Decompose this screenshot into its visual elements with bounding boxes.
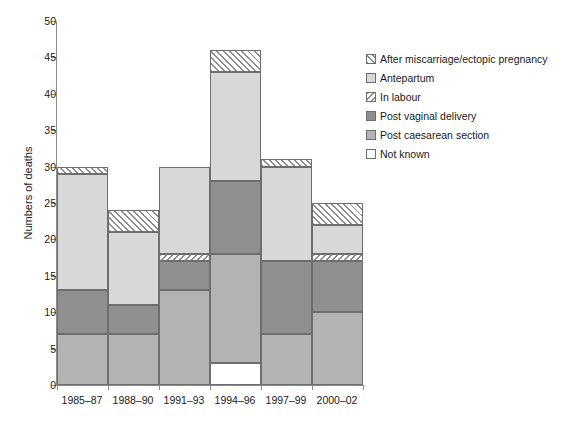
y-tick-label-wrap: 40 [0, 89, 56, 99]
bar-segment-postcaes[interactable] [57, 334, 108, 385]
bar-segment-aftermis[interactable] [57, 167, 108, 174]
y-tick-label: 40 [12, 89, 56, 99]
stacked-bar-chart: Numbers of deaths 05101520253035404550 1… [0, 0, 565, 427]
bar-segment-postcaes[interactable] [108, 334, 159, 385]
legend-item-antepartum[interactable]: Antepartum [366, 69, 562, 87]
y-tick-label: 50 [12, 16, 56, 26]
y-tick-label: 15 [12, 271, 56, 281]
bar-segment-antepartum[interactable] [159, 167, 210, 254]
y-tick-label-wrap: 45 [0, 52, 56, 62]
y-tick-label: 45 [12, 52, 56, 62]
bar-segment-aftermis[interactable] [312, 203, 363, 225]
y-tick-label: 10 [12, 307, 56, 317]
legend-swatch-icon [366, 149, 376, 159]
y-tick-label-wrap: 5 [0, 344, 56, 354]
legend-label: Antepartum [380, 73, 434, 84]
bar-segment-antepartum[interactable] [57, 174, 108, 290]
legend-label: In labour [380, 92, 421, 103]
bar-segment-postvag[interactable] [312, 261, 363, 312]
bar-segment-aftermis[interactable] [210, 50, 261, 72]
legend-item-not-known[interactable]: Not known [366, 145, 562, 163]
x-tick-label-199799: 1997–99 [261, 394, 312, 406]
bar-segment-postcaes[interactable] [261, 334, 312, 385]
y-tick-label: 20 [12, 234, 56, 244]
legend-label: Post caesarean section [380, 130, 489, 141]
legend-swatch-icon [366, 92, 376, 102]
bar-segment-postcaes[interactable] [312, 312, 363, 385]
x-tick-label-199496: 1994–96 [210, 394, 261, 406]
y-tick-label: 30 [12, 162, 56, 172]
y-tick-label: 0 [12, 380, 56, 390]
bar-segment-inlabour[interactable] [159, 254, 210, 261]
y-tick-label-wrap: 30 [0, 162, 56, 172]
x-tick-label-198587: 1985–87 [57, 394, 108, 406]
legend-label: After miscarriage/ectopic pregnancy [380, 54, 548, 65]
y-tick-label-wrap: 20 [0, 234, 56, 244]
x-tick-mark [159, 385, 160, 390]
bar-segment-antepartum[interactable] [261, 167, 312, 262]
y-tick-label-wrap: 35 [0, 125, 56, 135]
x-tick-label-200002: 2000–02 [312, 394, 363, 406]
y-tick-label-wrap: 10 [0, 307, 56, 317]
bar-segment-postvag[interactable] [210, 181, 261, 254]
legend-swatch-icon [366, 54, 376, 64]
y-tick-label-wrap: 15 [0, 271, 56, 281]
bar-segment-postcaes[interactable] [210, 254, 261, 363]
legend-swatch-icon [366, 130, 376, 140]
legend-swatch-icon [366, 73, 376, 83]
x-tick-mark [312, 385, 313, 390]
y-tick-label-wrap: 50 [0, 16, 56, 26]
legend-label: Not known [380, 149, 430, 160]
y-tick-label-wrap: 0 [0, 380, 56, 390]
bar-segment-aftermis[interactable] [261, 159, 312, 166]
legend-label: Post vaginal delivery [380, 111, 476, 122]
x-tick-label-198890: 1988–90 [108, 394, 159, 406]
bar-segment-postvag[interactable] [159, 261, 210, 290]
bar-segment-postcaes[interactable] [159, 290, 210, 385]
y-tick-label: 25 [12, 198, 56, 208]
chart-legend: After miscarriage/ectopic pregnancyAntep… [366, 50, 562, 164]
bar-segment-antepartum[interactable] [312, 225, 363, 254]
bar-segment-notknown[interactable] [210, 363, 261, 385]
bar-segment-antepartum[interactable] [108, 232, 159, 305]
legend-item-in-labour[interactable]: In labour [366, 88, 562, 106]
y-tick-label: 35 [12, 125, 56, 135]
y-tick-label-wrap: 25 [0, 198, 56, 208]
x-tick-label-199193: 1991–93 [159, 394, 210, 406]
x-tick-mark [108, 385, 109, 390]
legend-item-after-miscarriage[interactable]: After miscarriage/ectopic pregnancy [366, 50, 562, 68]
legend-item-post-caesarean-section[interactable]: Post caesarean section [366, 126, 562, 144]
bar-segment-antepartum[interactable] [210, 72, 261, 181]
x-tick-mark [363, 385, 364, 390]
x-tick-mark [261, 385, 262, 390]
x-tick-mark [210, 385, 211, 390]
x-tick-mark [57, 385, 58, 390]
legend-item-post-vaginal-delivery[interactable]: Post vaginal delivery [366, 107, 562, 125]
legend-swatch-icon [366, 111, 376, 121]
bar-segment-postvag[interactable] [57, 290, 108, 334]
bar-segment-postvag[interactable] [261, 261, 312, 334]
bar-segment-inlabour[interactable] [312, 254, 363, 261]
bar-segment-postvag[interactable] [108, 305, 159, 334]
y-tick-label: 5 [12, 344, 56, 354]
bar-segment-aftermis[interactable] [108, 210, 159, 232]
